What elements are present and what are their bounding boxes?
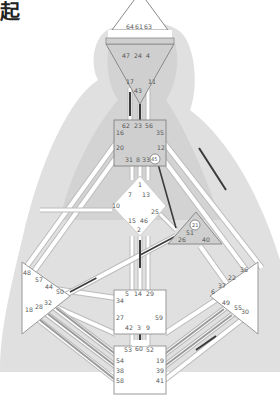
- svg-text:33: 33: [142, 156, 150, 163]
- svg-text:21: 21: [192, 222, 198, 228]
- svg-text:16: 16: [116, 129, 124, 136]
- svg-text:18: 18: [25, 306, 33, 313]
- svg-text:58: 58: [116, 377, 124, 384]
- svg-text:64: 64: [126, 23, 134, 30]
- svg-text:32: 32: [44, 299, 52, 306]
- svg-text:40: 40: [202, 236, 210, 243]
- svg-text:57: 57: [35, 276, 43, 283]
- svg-text:22: 22: [228, 274, 236, 281]
- svg-text:50: 50: [56, 288, 64, 295]
- svg-text:34: 34: [116, 297, 124, 304]
- svg-text:61: 61: [135, 23, 143, 30]
- svg-text:24: 24: [134, 52, 142, 59]
- svg-text:25: 25: [151, 208, 159, 215]
- svg-text:31: 31: [125, 156, 133, 163]
- svg-text:20: 20: [116, 144, 124, 151]
- svg-text:43: 43: [134, 87, 142, 94]
- svg-text:27: 27: [116, 314, 124, 321]
- svg-text:15: 15: [128, 217, 136, 224]
- svg-text:62: 62: [122, 122, 130, 129]
- svg-text:26: 26: [178, 236, 186, 243]
- svg-text:41: 41: [156, 377, 164, 384]
- bodygraph: 64 61 63 47 24 4 17 11 43 62 23 56 16 35…: [0, 0, 280, 400]
- svg-text:35: 35: [156, 129, 164, 136]
- svg-text:38: 38: [116, 367, 124, 374]
- svg-text:59: 59: [155, 314, 163, 321]
- svg-text:10: 10: [112, 202, 120, 209]
- svg-text:8: 8: [136, 156, 140, 163]
- svg-text:13: 13: [142, 191, 150, 198]
- svg-text:46: 46: [140, 217, 148, 224]
- svg-text:4: 4: [146, 52, 150, 59]
- svg-text:45: 45: [151, 156, 157, 162]
- svg-text:52: 52: [146, 346, 154, 353]
- svg-text:6: 6: [211, 288, 215, 295]
- svg-text:49: 49: [222, 299, 230, 306]
- svg-text:19: 19: [156, 357, 164, 364]
- svg-text:44: 44: [45, 283, 53, 290]
- svg-text:36: 36: [240, 266, 248, 273]
- svg-text:51: 51: [186, 229, 194, 236]
- svg-text:29: 29: [146, 290, 154, 297]
- svg-text:14: 14: [134, 290, 142, 297]
- svg-text:60: 60: [135, 345, 143, 352]
- svg-text:23: 23: [134, 122, 142, 129]
- svg-text:28: 28: [35, 303, 43, 310]
- svg-text:39: 39: [156, 367, 164, 374]
- svg-text:11: 11: [148, 78, 156, 85]
- svg-text:30: 30: [241, 308, 249, 315]
- svg-text:2: 2: [137, 226, 141, 233]
- svg-text:5: 5: [125, 290, 129, 297]
- svg-text:17: 17: [126, 78, 134, 85]
- svg-text:7: 7: [128, 191, 132, 198]
- svg-text:48: 48: [23, 269, 31, 276]
- svg-text:42: 42: [125, 324, 133, 331]
- svg-text:1: 1: [138, 181, 142, 188]
- svg-text:54: 54: [116, 357, 124, 364]
- svg-text:37: 37: [218, 282, 226, 289]
- svg-text:47: 47: [122, 52, 130, 59]
- svg-text:53: 53: [124, 346, 132, 353]
- svg-text:9: 9: [146, 324, 150, 331]
- svg-text:63: 63: [144, 23, 152, 30]
- svg-text:12: 12: [157, 144, 165, 151]
- center-head[interactable]: [108, 0, 172, 38]
- svg-text:3: 3: [137, 324, 141, 331]
- svg-text:56: 56: [145, 122, 153, 129]
